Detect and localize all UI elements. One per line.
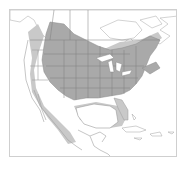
north-america-map xyxy=(10,10,177,157)
map-frame xyxy=(9,9,177,157)
gulf-of-mexico xyxy=(76,104,118,128)
central-america xyxy=(78,130,112,157)
caribbean-islands xyxy=(122,114,174,140)
